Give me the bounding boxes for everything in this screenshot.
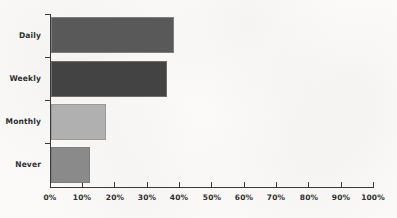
x-tick-label-70: 70%	[262, 193, 290, 202]
x-axis-tick	[308, 182, 309, 188]
x-axis-tick	[114, 182, 115, 188]
bar-monthly[interactable]	[51, 104, 106, 140]
x-axis-tick	[244, 182, 245, 188]
x-tick-label-10: 10%	[68, 193, 96, 202]
y-axis-tick	[45, 143, 50, 144]
bar-daily[interactable]	[51, 17, 174, 53]
x-tick-label-90: 90%	[327, 193, 355, 202]
x-axis-tick	[276, 182, 277, 188]
bar-weekly[interactable]	[51, 61, 167, 97]
x-axis-tick	[211, 182, 212, 188]
category-label-never: Never	[0, 160, 41, 169]
bar-never[interactable]	[51, 147, 90, 183]
x-axis-tick	[373, 182, 374, 188]
y-axis-tick	[45, 14, 50, 15]
x-tick-label-0: 0%	[36, 193, 64, 202]
plot-area: Daily Weekly Monthly Never 0% 10% 20% 30…	[0, 0, 397, 218]
category-label-monthly: Monthly	[0, 117, 41, 126]
category-label-weekly: Weekly	[0, 74, 41, 83]
bar-chart: Daily Weekly Monthly Never 0% 10% 20% 30…	[0, 0, 397, 218]
x-tick-label-30: 30%	[133, 193, 161, 202]
x-tick-label-50: 50%	[198, 193, 226, 202]
x-axis-tick	[341, 182, 342, 188]
x-tick-label-20: 20%	[101, 193, 129, 202]
x-axis-tick	[147, 182, 148, 188]
x-axis-tick	[179, 182, 180, 188]
x-tick-label-60: 60%	[230, 193, 258, 202]
category-label-daily: Daily	[0, 31, 41, 40]
x-tick-label-100: 100%	[358, 193, 388, 202]
y-axis-tick	[45, 100, 50, 101]
x-tick-label-80: 80%	[295, 193, 323, 202]
x-tick-label-40: 40%	[165, 193, 193, 202]
y-axis-tick	[45, 57, 50, 58]
